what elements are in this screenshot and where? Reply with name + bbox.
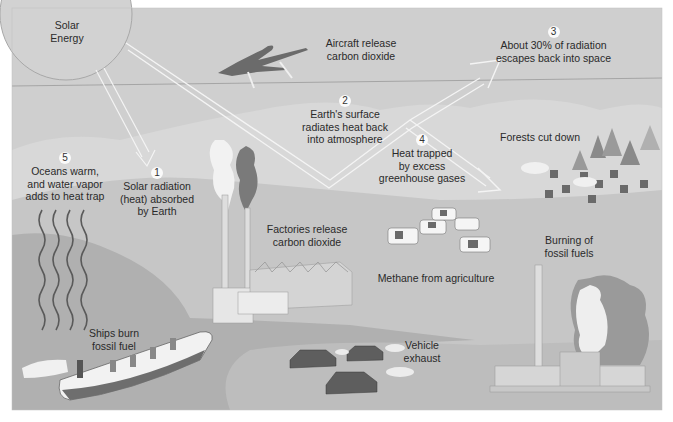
aircraft-label: Aircraft release carbon dioxide — [306, 37, 416, 62]
step-1-line: Solar radiation — [114, 180, 200, 193]
step-5-line: adds to heat trap — [20, 190, 110, 203]
ships-label-line: Ships burn — [74, 327, 154, 340]
step-1-label: 1 Solar radiation (heat) absorbed by Ear… — [114, 166, 200, 218]
burning-label-line: fossil fuels — [534, 247, 604, 260]
step-number-badge: 4 — [416, 134, 428, 146]
burning-label-line: Burning of — [534, 234, 604, 247]
factories-label-line: Factories release — [257, 223, 357, 236]
step-3-line: About 30% of radiation — [476, 39, 631, 52]
aircraft-label-line: Aircraft release — [306, 37, 416, 50]
factories-label-line: carbon dioxide — [257, 236, 357, 249]
aircraft-label-line: carbon dioxide — [306, 50, 416, 63]
step-5-line: Oceans warm, — [20, 165, 110, 178]
ships-label: Ships burn fossil fuel — [74, 327, 154, 352]
sun-label-line: Energy — [40, 32, 94, 45]
vehicles-label: Vehicle exhaust — [392, 339, 452, 364]
sun-label-line: Solar — [40, 19, 94, 32]
sun-label: Solar Energy — [40, 19, 94, 44]
step-number-badge: 2 — [339, 95, 351, 107]
forests-label-line: Forests cut down — [492, 131, 588, 144]
step-2-line: Earth's surface — [286, 108, 404, 121]
step-4-label: 4 Heat trapped by excess greenhouse gase… — [370, 133, 474, 185]
burning-label: Burning of fossil fuels — [534, 234, 604, 259]
step-2-line: radiates heat back — [286, 121, 404, 134]
vehicles-label-line: Vehicle — [392, 339, 452, 352]
vehicles-label-line: exhaust — [392, 352, 452, 365]
step-5-line: and water vapor — [20, 178, 110, 191]
step-5-label: 5 Oceans warm, and water vapor adds to h… — [20, 151, 110, 203]
step-3-label: 3 About 30% of radiation escapes back in… — [476, 25, 631, 64]
step-1-line: by Earth — [114, 205, 200, 218]
methane-label: Methane from agriculture — [376, 272, 496, 285]
step-1-line: (heat) absorbed — [114, 193, 200, 206]
step-4-line: Heat trapped — [370, 147, 474, 160]
factories-label: Factories release carbon dioxide — [257, 223, 357, 248]
step-3-line: escapes back into space — [476, 52, 631, 65]
forests-label: Forests cut down — [492, 131, 588, 144]
methane-label-line: Methane from agriculture — [376, 272, 496, 285]
step-number-badge: 5 — [59, 152, 71, 164]
step-number-badge: 1 — [151, 167, 163, 179]
step-4-line: by excess — [370, 160, 474, 173]
ships-label-line: fossil fuel — [74, 340, 154, 353]
step-number-badge: 3 — [548, 26, 560, 38]
step-4-line: greenhouse gases — [370, 172, 474, 185]
